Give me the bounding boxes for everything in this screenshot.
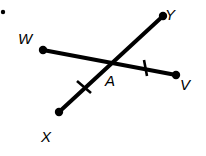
point-label-x: X: [40, 128, 52, 145]
stray-dot: [1, 10, 5, 14]
tick-mark-av: [144, 60, 147, 76]
geometry-canvas: Intersecting segments WV and XY meeting …: [0, 0, 206, 156]
point-label-a: A: [104, 72, 115, 89]
endpoint-dot-x: [55, 108, 63, 116]
point-label-v: V: [180, 76, 192, 93]
segment-xy: [59, 16, 163, 112]
endpoint-dot-v: [172, 71, 180, 79]
point-label-y: Y: [165, 6, 176, 23]
endpoint-dot-w: [39, 46, 47, 54]
point-label-w: W: [18, 30, 34, 47]
geometry-figure: Intersecting segments WV and XY meeting …: [0, 0, 206, 156]
